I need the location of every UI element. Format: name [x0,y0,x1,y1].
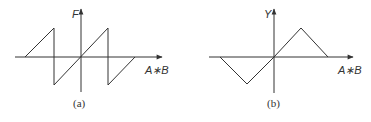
caption-a: (a) [73,97,86,110]
y-axis-label-a: F [72,8,80,20]
panel-b: Y A∗B (b) [209,8,362,110]
diagram-canvas: F A∗B (a) Y A∗B (b) [0,0,371,122]
y-axis-label-b: Y [264,8,272,20]
panel-a: F A∗B (a) [15,8,169,110]
caption-b: (b) [267,97,280,110]
x-axis-label-a: A∗B [144,64,169,76]
x-axis-label-b: A∗B [337,64,362,76]
